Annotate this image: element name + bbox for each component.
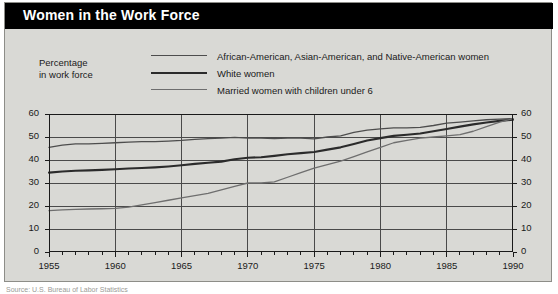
y-axis-caption-line2: in work force (39, 69, 93, 81)
legend-item-label: African-American, Asian-American, and Na… (217, 51, 489, 62)
legend-item-label: White women (217, 68, 275, 79)
y-axis-tick-label-right: 0 (521, 245, 541, 256)
source-note: Source: U.S. Bureau of Labor Statistics (6, 286, 306, 294)
y-axis-tick-label-right: 40 (521, 153, 541, 164)
page-title: Women in the Work Force (23, 7, 200, 23)
y-axis-tick-label-right: 50 (521, 130, 541, 141)
legend-item-label: Married women with children under 6 (217, 85, 373, 96)
y-axis-tick-label-left: 0 (19, 245, 39, 256)
y-axis-tick-label-right: 30 (521, 176, 541, 187)
legend-line-icon (151, 55, 207, 56)
legend-item: Married women with children under 6 (151, 81, 551, 98)
y-axis-tick-label-left: 40 (19, 153, 39, 164)
y-axis-tick-label-right: 10 (521, 222, 541, 233)
y-axis-tick-label-right: 60 (521, 107, 541, 118)
chart-panel: Women in the Work Force Percentage in wo… (4, 2, 552, 282)
chart-figure: Women in the Work Force Percentage in wo… (0, 0, 558, 294)
legend-item: African-American, Asian-American, and Na… (151, 47, 551, 64)
legend-line-icon (151, 89, 207, 90)
x-axis-tick-label: 1960 (95, 260, 135, 271)
x-axis-tick-label: 1975 (294, 260, 334, 271)
y-axis-tick-label-right: 20 (521, 199, 541, 210)
plot-area (43, 112, 507, 250)
y-axis-tick-label-left: 30 (19, 176, 39, 187)
x-axis-tick-label: 1965 (162, 260, 202, 271)
legend-line-icon (151, 72, 207, 74)
title-banner: Women in the Work Force (5, 3, 553, 29)
y-axis-caption-line1: Percentage (39, 57, 93, 69)
y-axis-tick-label-left: 60 (19, 107, 39, 118)
x-axis-tick-label: 1985 (427, 260, 467, 271)
y-axis-tick-label-left: 50 (19, 130, 39, 141)
y-axis-caption: Percentage in work force (39, 57, 93, 81)
legend-item: White women (151, 64, 551, 81)
x-axis-tick-label: 1955 (29, 260, 69, 271)
x-axis-tick-label: 1990 (493, 260, 533, 271)
x-axis-tick-label: 1980 (360, 260, 400, 271)
y-axis-tick-label-left: 10 (19, 222, 39, 233)
x-axis-tick-label: 1970 (228, 260, 268, 271)
plot-svg (43, 112, 521, 262)
y-axis-tick-label-left: 20 (19, 199, 39, 210)
chart-legend: African-American, Asian-American, and Na… (151, 47, 551, 98)
